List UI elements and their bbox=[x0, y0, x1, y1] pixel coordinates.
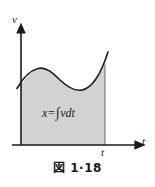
x-axis-label: t bbox=[142, 136, 145, 147]
y-axis-label: v bbox=[12, 14, 17, 25]
area-formula: x=∫vdt bbox=[42, 106, 75, 120]
formula-integrand: vdt bbox=[60, 106, 75, 120]
figure-container: v t t x=∫vdt 図 1·18 bbox=[0, 0, 155, 187]
area-under-curve bbox=[21, 65, 105, 146]
x-axis-tick-label: t bbox=[101, 147, 104, 158]
figure-caption: 図 1·18 bbox=[0, 162, 155, 174]
velocity-time-plot bbox=[0, 0, 155, 160]
